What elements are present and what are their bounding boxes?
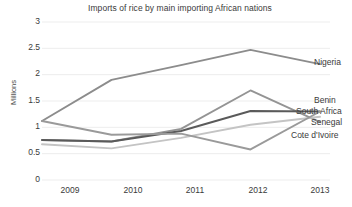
series-label-nigeria: Nigeria <box>314 58 341 67</box>
series-label-senegal: Senegal <box>311 118 342 127</box>
x-tick-2013: 2013 <box>298 186 342 195</box>
x-tick-2012: 2012 <box>236 186 280 195</box>
series-label-benin: Benin <box>314 96 336 105</box>
gridlines <box>42 22 330 180</box>
line-chart: Imports of rice by main importing Africa… <box>0 0 352 207</box>
series-label-cote-divoire: Cote d'Ivoire <box>291 131 338 140</box>
series-label-south-africa: South Africa <box>296 107 342 116</box>
x-tick-2009: 2009 <box>48 186 92 195</box>
x-tick-2011: 2011 <box>173 186 217 195</box>
series-line-senegal <box>42 117 320 149</box>
series-lines <box>42 50 320 150</box>
plot-area <box>0 0 352 207</box>
x-tick-2010: 2010 <box>111 186 155 195</box>
